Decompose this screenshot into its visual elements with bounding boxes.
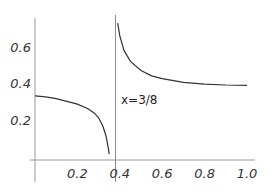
x-tick-label: 0.6 xyxy=(152,166,173,181)
curve-left-branch xyxy=(35,96,109,154)
x-tick-labels: 0.20.40.60.81.0 xyxy=(67,166,257,181)
asymptote-label: x=3/8 xyxy=(121,93,157,107)
y-tick-label: 0.2 xyxy=(10,113,31,128)
x-tick-label: 0.4 xyxy=(109,166,130,181)
y-tick-label: 0.6 xyxy=(10,40,31,55)
x-tick-label: 1.0 xyxy=(237,166,258,181)
x-tick-label: 0.2 xyxy=(67,166,88,181)
curve-right-branch xyxy=(118,23,247,85)
x-tick-label: 0.8 xyxy=(194,166,215,181)
y-tick-labels: 0.20.40.6 xyxy=(10,40,31,128)
y-tick-label: 0.4 xyxy=(10,76,31,91)
chart: 0.20.40.6 0.20.40.60.81.0 x=3/8 xyxy=(0,0,276,195)
